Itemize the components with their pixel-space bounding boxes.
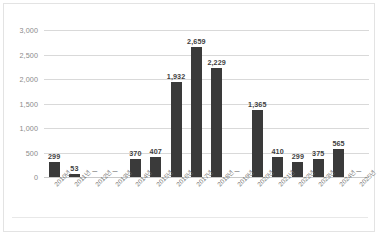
bar-group[interactable]: – (105, 30, 125, 177)
bar-group[interactable]: 375 (308, 30, 328, 177)
bar-group[interactable]: 2,659 (186, 30, 206, 177)
bar-group[interactable]: 299 (288, 30, 308, 177)
bar[interactable] (211, 68, 222, 177)
bar-group[interactable]: 299 (44, 30, 64, 177)
bar-group[interactable]: – (349, 30, 369, 177)
bar-value-label: 2,229 (207, 58, 226, 67)
bar-value-label: – (92, 166, 97, 176)
bar-group[interactable]: – (85, 30, 105, 177)
bar-value-label: 1,365 (248, 100, 267, 109)
bar-group[interactable]: 565 (328, 30, 348, 177)
bar-value-label: 407 (150, 147, 162, 156)
bar-group[interactable]: 410 (267, 30, 287, 177)
bar-value-label: 410 (271, 147, 283, 156)
bar-group[interactable]: 1,365 (247, 30, 267, 177)
y-axis-tick-label: 2,500 (20, 50, 39, 59)
bar-group[interactable]: 407 (146, 30, 166, 177)
bar-value-label: – (113, 166, 118, 176)
y-axis-tick-label: 500 (26, 148, 38, 157)
bar-group[interactable]: 370 (125, 30, 145, 177)
plot-area: 05001,0001,5002,0002,5003,000 29953––370… (4, 4, 374, 231)
y-axis-tick-label: 1,000 (20, 124, 39, 133)
bar-value-label: 1,932 (167, 72, 186, 81)
bar-value-label: 375 (312, 149, 324, 158)
bar[interactable] (191, 47, 202, 177)
y-axis-tick-label: 2,000 (20, 75, 39, 84)
bar-group[interactable]: 1,932 (166, 30, 186, 177)
bar-group[interactable]: – (227, 30, 247, 177)
y-axis-tick-label: 0 (34, 173, 38, 182)
bar-value-label: 2,659 (187, 37, 206, 46)
bar-group[interactable]: 53 (64, 30, 84, 177)
bar-value-label: 565 (332, 139, 344, 148)
bars-layer: 29953––3704071,9322,6592,229–1,365410299… (44, 30, 369, 177)
y-axis-tick-label: 1,500 (20, 99, 39, 108)
bar-value-label: 370 (129, 149, 141, 158)
bar-group[interactable]: 2,229 (207, 30, 227, 177)
bar-value-label: 299 (48, 152, 60, 161)
bar-value-label: 299 (292, 152, 304, 161)
bottom-divider (12, 217, 368, 218)
bar[interactable] (252, 110, 263, 177)
y-axis-tick-label: 3,000 (20, 26, 39, 35)
y-axis: 05001,0001,5002,0002,5003,000 (4, 30, 42, 177)
bar[interactable] (171, 82, 182, 177)
chart-container: 05001,0001,5002,0002,5003,000 29953––370… (3, 3, 375, 232)
